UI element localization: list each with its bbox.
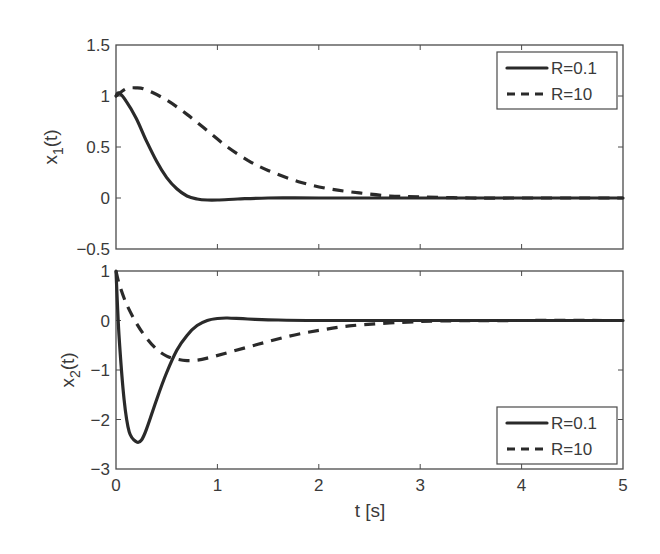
x-tick-label: 5 bbox=[618, 476, 627, 495]
bottom-panel: 10−1−2−3 012345 x2(t) t [s] R=0.1 R=10 bbox=[57, 262, 628, 521]
y-tick-label: 0.5 bbox=[86, 138, 110, 157]
series-line-r10 bbox=[116, 271, 623, 361]
y-tick-label: 1 bbox=[101, 262, 110, 281]
y-tick-label: 0 bbox=[101, 189, 110, 208]
y-tick-label: −2 bbox=[91, 411, 110, 430]
top-legend-label-r01: R=0.1 bbox=[551, 59, 597, 78]
bottom-y-tick-labels: 10−1−2−3 bbox=[91, 262, 110, 479]
bottom-legend: R=0.1 R=10 bbox=[497, 407, 617, 464]
x-tick-label: 4 bbox=[517, 476, 526, 495]
x-tick-label: 2 bbox=[314, 476, 323, 495]
x-axis-label: t [s] bbox=[355, 500, 386, 521]
bottom-legend-label-r10: R=10 bbox=[551, 440, 592, 459]
top-x-ticks bbox=[217, 45, 521, 249]
y-tick-label: 0 bbox=[101, 312, 110, 331]
top-y-tick-labels: 1.510.50−0.5 bbox=[76, 36, 110, 259]
top-panel: 1.510.50−0.5 x1(t) R=0.1 R=10 bbox=[40, 36, 623, 259]
y-tick-label: −0.5 bbox=[76, 240, 110, 259]
top-y-axis-label: x1(t) bbox=[40, 129, 66, 164]
y-tick-label: −3 bbox=[91, 460, 110, 479]
bottom-x-ticks bbox=[217, 271, 521, 469]
bottom-y-axis-label: x2(t) bbox=[57, 352, 83, 387]
figure: 1.510.50−0.5 x1(t) R=0.1 R=10 10−1−2−3 0… bbox=[0, 0, 660, 554]
x-tick-label: 0 bbox=[111, 476, 120, 495]
bottom-y-ticks bbox=[116, 321, 623, 420]
x-tick-labels: 012345 bbox=[111, 476, 627, 495]
x-tick-label: 3 bbox=[415, 476, 424, 495]
y-tick-label: 1 bbox=[101, 87, 110, 106]
top-legend-label-r10: R=10 bbox=[551, 85, 592, 104]
x-tick-label: 1 bbox=[213, 476, 222, 495]
top-y-ticks bbox=[116, 96, 623, 198]
bottom-legend-label-r01: R=0.1 bbox=[551, 414, 597, 433]
y-tick-label: 1.5 bbox=[86, 36, 110, 55]
top-legend: R=0.1 R=10 bbox=[497, 52, 617, 109]
y-tick-label: −1 bbox=[91, 361, 110, 380]
